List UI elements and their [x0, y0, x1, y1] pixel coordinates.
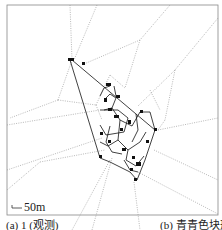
caption-right: (b) 青青色块形	[160, 219, 222, 230]
scale-bar-label: 50m	[24, 200, 45, 215]
map-figure	[0, 0, 222, 230]
caption-left: (a) 1 (观测)	[6, 219, 59, 230]
